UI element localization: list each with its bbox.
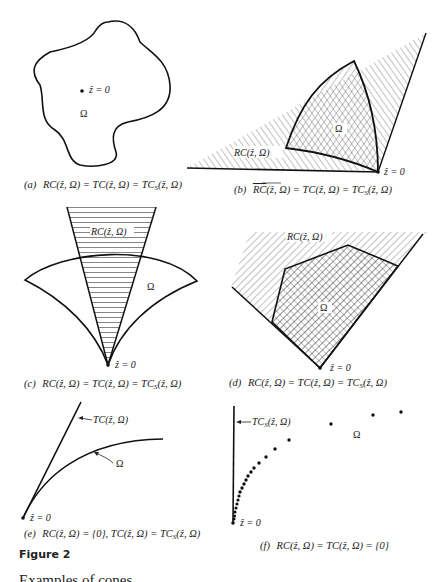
z0-point-a [80,89,84,93]
z0-label-d: ẑ = 0 [329,362,351,373]
caption-e: (e) RC(ẑ, Ω) = {0}, TC(ẑ, Ω) = TCS(ẑ, Ω) [24,528,201,541]
body-text-fragment: Examples of cones [19,573,132,582]
caption-d: (d) RC(ẑ, Ω) = TC(ẑ, Ω) = TCS(ẑ, Ω) [229,377,387,390]
panel-c: RC(ẑ, Ω) Ω ẑ = 0 (c) RC(ẑ, Ω) = TC(ẑ, Ω)… [24,207,197,391]
z0-label-a: ẑ = 0 [88,84,110,95]
panel-b: Ω RC(ẑ, Ω) ẑ = 0 (b) RC(ẑ, Ω) = TC(ẑ, Ω)… [187,33,426,197]
caption-a: (a) RC(ẑ, Ω) = TC(ẑ, Ω) = TCS(ẑ, Ω) [24,179,182,192]
omega-curve-e [23,439,163,518]
omega-label-a: Ω [80,108,87,119]
caption-c: (c) RC(ẑ, Ω) = TC(ẑ, Ω) = TCS(ẑ, Ω) [24,378,182,391]
z0-label-e: ẑ = 0 [29,512,51,523]
omega-label-f: Ω [353,429,360,440]
z0-label-b: ẑ = 0 [383,166,405,177]
z0-point-f [231,521,235,525]
caption-f: (f) RC(ẑ, Ω) = TC(ẑ, Ω) = {0} [260,540,390,552]
rc-label-b: RC(ẑ, Ω) [233,147,270,159]
z0-point-c [106,363,110,367]
tcs-label-f: TCS(ẑ, Ω) [252,416,291,429]
figure-title: Figure 2 [19,548,70,561]
omega-label-d: Ω [320,302,327,313]
rc-label-d: RC(ẑ, Ω) [286,231,323,243]
omega-label-b: Ω [335,123,342,134]
z0-label-c: ẑ = 0 [114,359,136,370]
z0-point-b [376,170,380,174]
z0-point-d [318,366,322,370]
panel-d: Ω RC(ẑ, Ω) ẑ = 0 (d) RC(ẑ, Ω) = TC(ẑ, Ω)… [229,230,432,390]
z0-point-e [21,516,25,520]
omega-label-c: Ω [147,281,154,292]
tc-label-e: TC(ẑ, Ω) [93,414,129,426]
z0-label-f: ẑ = 0 [239,517,261,528]
panel-f: TCS(ẑ, Ω) Ω ẑ = 0 [231,406,402,552]
figure-2: ẑ = 0 Ω (a) RC(ẑ, Ω) = TC(ẑ, Ω) = TCS(ẑ,… [0,0,444,582]
panel-a: ẑ = 0 Ω (a) RC(ẑ, Ω) = TC(ẑ, Ω) = TCS(ẑ,… [24,21,182,192]
panel-e: TC(ẑ, Ω) Ω ẑ = 0 (e) RC(ẑ, Ω) = {0}, TC(… [21,402,201,541]
omega-label-e: Ω [116,458,123,469]
tcs-cone-line-f [233,406,234,523]
caption-b: (b) RC(ẑ, Ω) = TC(ẑ, Ω) = TCS(ẑ, Ω) [234,184,392,197]
rc-label-c: RC(ẑ, Ω) [90,226,127,238]
